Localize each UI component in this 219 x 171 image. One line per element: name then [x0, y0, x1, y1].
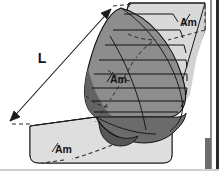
diagram-canvas: L Am Am Am: [0, 0, 219, 171]
am-label-bottom: Am: [55, 143, 72, 155]
frame-right-border: [216, 0, 219, 171]
prismatic-coefficient-diagram: L Am Am Am: [0, 0, 219, 171]
am-label-top: Am: [180, 16, 197, 28]
length-label: L: [38, 50, 47, 66]
frame-right-inner-dark: [205, 138, 211, 171]
am-label-center: Am: [110, 73, 127, 85]
frame-bottom-edge: [0, 169, 219, 171]
